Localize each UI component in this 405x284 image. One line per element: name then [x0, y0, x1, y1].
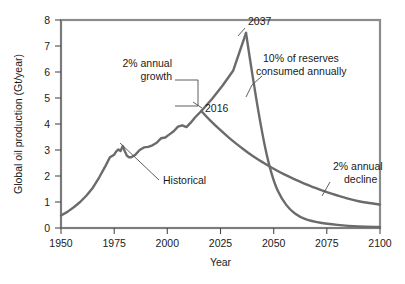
x-tick-label-2075: 2075: [315, 237, 339, 249]
reserves-label-line1: 10% of reserves: [263, 52, 339, 64]
x-tick-label-2000: 2000: [156, 237, 180, 249]
y-tick-label-3: 3: [44, 144, 50, 156]
decline-label-line2: decline: [344, 173, 377, 185]
x-tick-label-2100: 2100: [368, 237, 392, 249]
historical-label: Historical: [163, 174, 206, 186]
growth-label-line2: growth: [140, 70, 172, 82]
branch-year-label: 2016: [205, 102, 229, 114]
y-tick-label-1: 1: [44, 196, 50, 208]
y-tick-label-2: 2: [44, 170, 50, 182]
y-axis-title: Global oil production (Gt/year): [12, 54, 24, 194]
peak-year-label: 2037: [248, 15, 272, 27]
reserves-label-line2: consumed annually: [256, 65, 347, 77]
chart-svg: 0 1 2 3 4 5 6 7 8 1950 1975 2000 2025 20…: [0, 0, 405, 284]
growth-label-line1: 2% annual: [122, 57, 172, 69]
x-tick-label-2025: 2025: [209, 237, 233, 249]
decline-label-line1: 2% annual: [333, 160, 383, 172]
y-tick-label-4: 4: [44, 118, 50, 130]
x-tick-label-2050: 2050: [262, 237, 286, 249]
y-tick-label-7: 7: [44, 40, 50, 52]
y-tick-label-5: 5: [44, 92, 50, 104]
oil-production-chart: 0 1 2 3 4 5 6 7 8 1950 1975 2000 2025 20…: [0, 0, 405, 284]
y-tick-label-8: 8: [44, 14, 50, 26]
x-tick-label-1975: 1975: [103, 237, 127, 249]
y-tick-label-0: 0: [44, 222, 50, 234]
y-tick-label-6: 6: [44, 66, 50, 78]
x-axis-title: Year: [210, 256, 232, 268]
x-tick-label-1950: 1950: [49, 237, 73, 249]
